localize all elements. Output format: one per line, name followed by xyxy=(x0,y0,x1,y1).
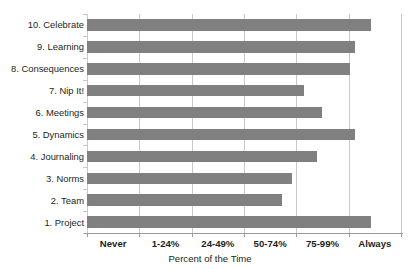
x-axis-tick xyxy=(296,233,297,237)
chart-title xyxy=(0,0,420,1)
y-axis-tick xyxy=(83,167,87,168)
x-axis-tick xyxy=(244,233,245,237)
x-axis-tick xyxy=(139,233,140,237)
y-axis-label: 1. Project xyxy=(0,217,84,228)
y-axis-label: 3. Norms xyxy=(0,173,84,184)
x-axis-tick xyxy=(349,233,350,237)
x-axis-tick xyxy=(87,233,88,237)
y-axis-label: 7. Nip It! xyxy=(0,85,84,96)
y-axis-tick xyxy=(83,145,87,146)
x-axis-tick-label: 50-74% xyxy=(254,238,287,249)
y-axis-label: 6. Meetings xyxy=(0,107,84,118)
bar xyxy=(87,129,355,141)
y-axis-tick xyxy=(83,36,87,37)
bar xyxy=(87,216,371,228)
x-axis-tick-label: Never xyxy=(100,238,127,249)
y-axis-label: 5. Dynamics xyxy=(0,129,84,140)
bar-chart: 10. Celebrate9. Learning8. Consequences7… xyxy=(0,0,420,269)
x-axis-tick xyxy=(192,233,193,237)
x-axis-tick-label: 1-24% xyxy=(152,238,180,249)
y-axis-tick xyxy=(83,102,87,103)
y-axis-tick xyxy=(83,58,87,59)
y-axis-label: 4. Journaling xyxy=(0,151,84,162)
gridline xyxy=(401,14,402,233)
y-axis-category-labels: 10. Celebrate9. Learning8. Consequences7… xyxy=(0,14,84,233)
bar xyxy=(87,173,292,185)
y-axis-label: 9. Learning xyxy=(0,41,84,52)
bar xyxy=(87,63,350,75)
x-axis-tick-label: Always xyxy=(358,238,391,249)
y-axis-label: 10. Celebrate xyxy=(0,19,84,30)
bar xyxy=(87,41,355,53)
y-axis-tick xyxy=(83,189,87,190)
plot-area xyxy=(87,14,402,233)
bar xyxy=(87,85,304,97)
x-axis-tick-label: 24-49% xyxy=(201,238,234,249)
y-axis-tick xyxy=(83,124,87,125)
y-axis-tick xyxy=(83,80,87,81)
bar xyxy=(87,194,282,206)
bar xyxy=(87,151,317,163)
x-axis-tick-label: 75-99% xyxy=(306,238,339,249)
y-axis-tick xyxy=(83,211,87,212)
bar xyxy=(87,19,371,31)
y-axis-label: 2. Team xyxy=(0,195,84,206)
x-axis-tick-labels: Never1-24%24-49%50-74%75-99%Always xyxy=(0,238,420,252)
x-axis-tick xyxy=(401,233,402,237)
bar xyxy=(87,107,322,119)
y-axis-label: 8. Consequences xyxy=(0,63,84,74)
y-axis-tick xyxy=(83,14,87,15)
x-axis-title: Percent of the Time xyxy=(0,253,420,264)
